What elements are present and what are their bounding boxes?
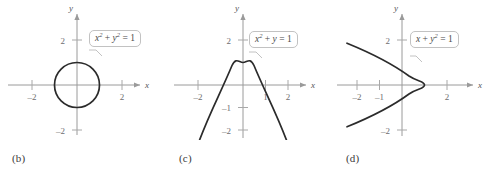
y-axis-arrow	[399, 14, 404, 20]
x-tick-label-neg2: –2	[193, 92, 203, 102]
panel-c: –2 1 2 2 –1 –2 x y x2 + y = 1 (c)	[166, 0, 332, 172]
graph-c: –2 1 2 2 –1 –2 x y	[166, 0, 332, 140]
equation-callout-c: x2 + y = 1	[249, 31, 298, 48]
x-tick-label-2: 2	[445, 92, 450, 102]
x-axis-arrow	[467, 82, 473, 87]
graph-b: –2 2 2 –2 x y	[0, 0, 166, 140]
panel-d: –2 –1 2 2 –2 x y x + y2 = 1 (d)	[332, 0, 498, 172]
eq-equals-d: = 1	[438, 34, 453, 44]
callout-tail-b	[89, 50, 102, 56]
callout-tail-c	[249, 52, 262, 58]
plot-area-b: –2 2 2 –2 x y	[0, 0, 166, 140]
y-axis-arrow	[240, 14, 245, 20]
y-axis-label: y	[234, 3, 239, 13]
plot-area-c: –2 1 2 2 –1 –2 x y	[166, 0, 332, 140]
x-tick-label-neg2: –2	[352, 92, 362, 102]
x-tick-label-neg2: –2	[27, 92, 37, 102]
x-axis-arrow	[134, 82, 140, 87]
eq-op-d: +	[420, 34, 430, 44]
equation-callout-b: x2 + y2 = 1	[89, 30, 141, 47]
y-axis-label: y	[393, 3, 398, 13]
x-axis-label: x	[310, 80, 315, 90]
callout-tail-d	[410, 56, 422, 62]
y-tick-label-2: 2	[61, 36, 66, 46]
y-tick-label-2: 2	[227, 36, 232, 46]
x-axis-label: x	[477, 80, 482, 90]
graph-d: –2 –1 2 2 –2 x y	[332, 0, 499, 140]
x-tick-label-neg1: –1	[374, 92, 384, 102]
x-axis-arrow	[300, 82, 306, 87]
y-axis-label: y	[68, 3, 73, 13]
equation-callout-d: x + y2 = 1	[410, 31, 459, 48]
panel-caption-c: (c)	[179, 152, 192, 164]
eq-op-c: +	[262, 34, 272, 44]
y-tick-label-neg2: –2	[380, 126, 390, 136]
y-tick-label-neg2: –2	[55, 126, 65, 136]
x-tick-label-2: 2	[286, 92, 291, 102]
y-axis-arrow	[74, 14, 79, 20]
panel-caption-d: (d)	[346, 152, 359, 164]
eq-op-b: +	[102, 33, 112, 43]
plot-area-d: –2 –1 2 2 –2 x y	[332, 0, 498, 140]
y-tick-label-neg1: –1	[221, 103, 231, 113]
eq-equals-c: = 1	[277, 34, 292, 44]
eq-equals-b: = 1	[120, 33, 135, 43]
y-tick-label-neg2: –2	[221, 126, 231, 136]
x-axis-label: x	[144, 80, 149, 90]
x-tick-label-2: 2	[120, 92, 125, 102]
figure-row: –2 2 2 –2 x y x2 + y2 = 1 (b)	[0, 0, 499, 172]
panel-caption-b: (b)	[12, 152, 25, 164]
panel-b: –2 2 2 –2 x y x2 + y2 = 1 (b)	[0, 0, 166, 172]
y-tick-label-2: 2	[386, 36, 391, 46]
